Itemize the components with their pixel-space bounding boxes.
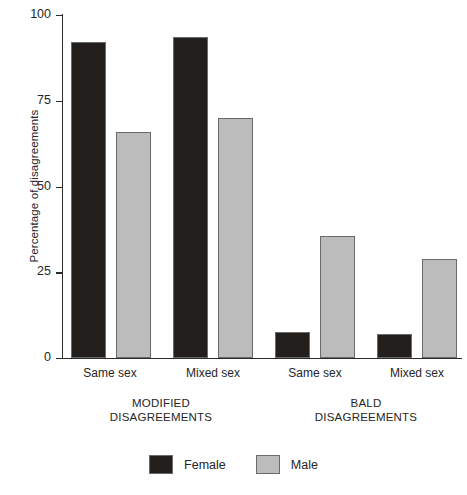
group-label-line2: DISAGREEMENTS: [71, 410, 251, 424]
y-axis-tick: 25: [0, 272, 62, 273]
legend-swatch-male: [256, 455, 280, 474]
bar-male-3: [218, 118, 253, 358]
y-axis-tick: 0: [0, 358, 62, 359]
bar-male-1: [116, 132, 151, 358]
bar-female-2: [173, 37, 208, 358]
legend-item-female: Female: [149, 455, 226, 474]
y-axis-tick-label: 75: [37, 93, 51, 107]
x-axis-category-label: Same sex: [50, 366, 170, 380]
y-axis-tick: 100: [0, 15, 62, 16]
x-axis-group-label: BALDDISAGREEMENTS: [276, 396, 456, 424]
y-axis-tick-label: 100: [30, 7, 51, 21]
bar-female-0: [71, 42, 106, 358]
bar-male-5: [320, 236, 355, 358]
group-label-line1: BALD: [351, 397, 382, 409]
legend-swatch-female: [149, 455, 173, 474]
y-axis-tick: 50: [0, 187, 62, 188]
x-axis-line: [62, 358, 462, 359]
group-label-line2: DISAGREEMENTS: [276, 410, 456, 424]
legend-label-female: Female: [184, 458, 226, 472]
y-axis-tick-label: 25: [37, 264, 51, 278]
bar-female-4: [275, 332, 310, 358]
legend-item-male: Male: [256, 455, 318, 474]
y-axis-tick-label: 50: [37, 179, 51, 193]
bar-female-6: [377, 334, 412, 358]
group-label-line1: MODIFIED: [132, 397, 190, 409]
y-axis-tick: 75: [0, 101, 62, 102]
x-axis-group-label: MODIFIEDDISAGREEMENTS: [71, 396, 251, 424]
y-axis-tick-label: 0: [44, 350, 51, 364]
plot-area: [62, 15, 458, 358]
legend-label-male: Male: [291, 458, 318, 472]
x-axis-category-label: Mixed sex: [357, 366, 467, 380]
y-axis-tick-mark: [56, 358, 62, 359]
chart-legend: FemaleMale: [0, 455, 467, 474]
bar-male-7: [422, 259, 457, 358]
bar-chart-figure: Percentage of disagreements 0255075100 S…: [0, 0, 467, 495]
